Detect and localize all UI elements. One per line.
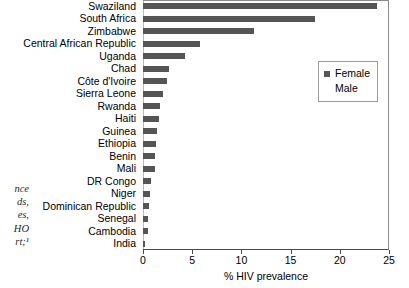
- bar-senegal: [143, 216, 148, 222]
- category-label: Rwanda: [0, 101, 136, 112]
- category-label: Swaziland: [0, 1, 136, 12]
- category-label: Zimbabwe: [0, 26, 136, 37]
- hiv-prevalence-bar-chart: SwazilandSouth AfricaZimbabweCentral Afr…: [0, 0, 409, 288]
- category-label: Ethiopia: [0, 138, 136, 149]
- bar-chad: [143, 66, 169, 72]
- bar-swaziland: [143, 3, 377, 9]
- bar-central-african-republic: [143, 41, 200, 47]
- bar-niger: [143, 191, 150, 197]
- x-tick-label: 20: [334, 255, 346, 266]
- category-label: Central African Republic: [0, 38, 136, 49]
- chart-legend: Female Male: [318, 61, 378, 102]
- category-label: Sierra Leone: [0, 88, 136, 99]
- x-tick-label: 15: [285, 255, 297, 266]
- category-label: Chad: [0, 63, 136, 74]
- category-label: Mali: [0, 163, 136, 174]
- bar-mali: [143, 166, 155, 172]
- bar-benin: [143, 153, 155, 159]
- legend-swatch-male-icon: [324, 86, 330, 92]
- category-label: India: [0, 238, 136, 249]
- category-label: Uganda: [0, 51, 136, 62]
- legend-label-male: Male: [335, 83, 358, 94]
- bar-cambodia: [143, 228, 148, 234]
- legend-item-female: Female: [324, 66, 370, 81]
- bar-south-africa: [143, 16, 315, 22]
- bar-india: [143, 241, 145, 247]
- category-label: Benin: [0, 151, 136, 162]
- bar-dr-congo: [143, 178, 151, 184]
- category-label: Senegal: [0, 213, 136, 224]
- x-tick-label: 0: [140, 255, 146, 266]
- category-label: Dominican Republic: [0, 201, 136, 212]
- bar-rwanda: [143, 103, 160, 109]
- bar-ethiopia: [143, 141, 156, 147]
- x-axis-title: % HIV prevalence: [143, 270, 389, 282]
- category-label: Guinea: [0, 126, 136, 137]
- category-label: South Africa: [0, 13, 136, 24]
- x-tick-label: 5: [189, 255, 195, 266]
- x-tick-label: 10: [236, 255, 248, 266]
- bar-dominican-republic: [143, 203, 149, 209]
- bar-zimbabwe: [143, 28, 254, 34]
- category-label: DR Congo: [0, 176, 136, 187]
- bar-c-te-d-ivoire: [143, 78, 167, 84]
- category-label: Niger: [0, 188, 136, 199]
- legend-swatch-female-icon: [324, 71, 330, 77]
- bar-haiti: [143, 116, 159, 122]
- bars-container: [143, 0, 389, 250]
- x-tick-label: 25: [383, 255, 395, 266]
- category-label: Cambodia: [0, 226, 136, 237]
- legend-item-male: Male: [324, 81, 370, 96]
- category-label: Haiti: [0, 113, 136, 124]
- bar-guinea: [143, 128, 157, 134]
- category-axis-labels: SwazilandSouth AfricaZimbabweCentral Afr…: [0, 0, 136, 250]
- bar-sierra-leone: [143, 91, 163, 97]
- bar-uganda: [143, 53, 185, 59]
- legend-label-female: Female: [335, 68, 370, 79]
- category-label: Côte d'Ivoire: [0, 76, 136, 87]
